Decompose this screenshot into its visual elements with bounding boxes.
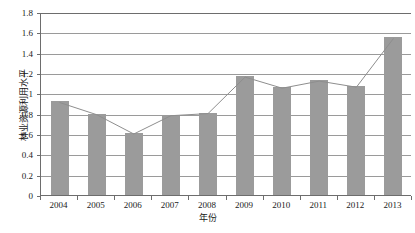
- x-axis-tick-mark: [374, 196, 375, 200]
- y-axis-tick-label: 1.4: [0, 50, 33, 59]
- x-axis-tick-label: 2007: [151, 201, 188, 210]
- x-axis-tick-label: 2012: [337, 201, 374, 210]
- x-axis-tick-label: 2010: [263, 201, 300, 210]
- x-axis-tick-label: 2006: [114, 201, 151, 210]
- x-axis-tick-mark: [337, 196, 338, 200]
- x-axis-title: 年份: [0, 214, 415, 223]
- y-axis-title: 林业资源利用水平: [20, 45, 29, 165]
- y-axis-tick-label: 0.4: [0, 151, 33, 160]
- y-axis-tick-label: 0.2: [0, 172, 33, 181]
- chart-container: 林业资源利用水平 00.20.40.60.811.21.41.61.8 2004…: [0, 0, 415, 233]
- x-axis-tick-label: 2011: [300, 201, 337, 210]
- x-axis-tick-mark: [151, 196, 152, 200]
- x-axis-tick-label: 2013: [374, 201, 411, 210]
- y-axis-tick-label: 0: [0, 192, 33, 201]
- x-axis-tick-label: 2004: [40, 201, 77, 210]
- y-axis-tick-label: 1.8: [0, 9, 33, 18]
- y-axis-tick-label: 0.8: [0, 111, 33, 120]
- x-axis-tick-label: 2009: [226, 201, 263, 210]
- x-axis-tick-mark: [300, 196, 301, 200]
- x-axis-tick-mark: [77, 196, 78, 200]
- x-axis-tick-label: 2005: [77, 201, 114, 210]
- x-axis-tick-mark: [188, 196, 189, 200]
- y-axis-tick-label: 1: [0, 90, 33, 99]
- y-axis-tick-label: 0.6: [0, 131, 33, 140]
- y-axis-tick-label: 1.6: [0, 29, 33, 38]
- trend-line: [60, 38, 394, 134]
- x-axis-tick-mark: [226, 196, 227, 200]
- y-axis-tick-label: 1.2: [0, 70, 33, 79]
- plot-area: [40, 13, 411, 196]
- x-axis-tick-mark: [411, 196, 412, 200]
- x-axis-tick-mark: [40, 196, 41, 200]
- x-axis-tick-mark: [114, 196, 115, 200]
- x-axis-tick-label: 2008: [188, 201, 225, 210]
- y-axis-title-wrapper: 林业资源利用水平: [8, 13, 9, 196]
- line-series: [41, 13, 412, 196]
- x-axis-tick-mark: [263, 196, 264, 200]
